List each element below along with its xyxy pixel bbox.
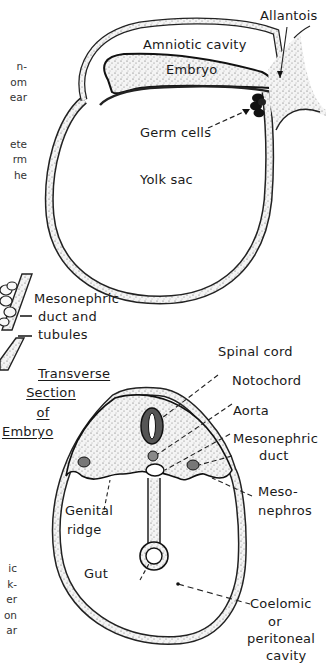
label-embryo: Embryo	[166, 62, 217, 77]
frag-line: ear	[0, 90, 27, 106]
frag-line: ar	[0, 623, 17, 639]
label-mesonephric-duct-tubules-1: Mesonephric	[34, 291, 119, 306]
frag-line: rm	[0, 152, 27, 168]
notochord	[148, 451, 158, 461]
label-yolk-sac: Yolk sac	[140, 172, 193, 187]
label-genital-ridge-1: Genital	[65, 503, 113, 518]
frag-line: er	[0, 592, 17, 608]
label-coelomic-1: Coelomic	[250, 596, 312, 611]
label-genital-ridge-2: ridge	[67, 522, 101, 537]
label-mesonephric-duct-tubules-3: tubules	[38, 327, 88, 342]
label-germ-cells: Germ cells	[140, 125, 211, 140]
mesonephric-duct-right	[187, 460, 199, 470]
label-allantois: Allantois	[260, 8, 318, 23]
mesonephric-tubules-fragment	[0, 274, 32, 370]
section-title-line-4: Embryo	[2, 424, 52, 439]
frag-line: om	[0, 75, 27, 91]
label-coelomic-3: peritoneal	[247, 631, 315, 646]
cropped-text-bottom: ic k- er on ar	[0, 561, 17, 639]
label-coelomic-4: cavity	[266, 648, 306, 663]
label-notochord: Notochord	[232, 373, 301, 388]
aorta	[146, 464, 164, 476]
label-mesonephros-2: nephros	[258, 503, 312, 518]
mesonephric-duct-left	[78, 457, 90, 467]
section-title-line-3: of	[33, 405, 53, 420]
label-gut: Gut	[84, 566, 108, 581]
frag-line: n-	[0, 59, 27, 75]
frag-line: on	[0, 608, 17, 624]
label-mesonephros-1: Meso-	[258, 484, 298, 499]
section-title-line-2: Section	[26, 385, 76, 400]
label-mesonephric-duct-1: Mesonephric	[233, 431, 318, 446]
label-mesonephric-duct-tubules-2: duct and	[38, 309, 97, 324]
germ-cells-leader	[208, 110, 248, 128]
label-aorta: Aorta	[233, 403, 269, 418]
frag-line: ic	[0, 561, 17, 577]
label-mesonephric-duct-2: duct	[259, 448, 289, 463]
frag-line: k-	[0, 577, 17, 593]
frag-line	[0, 106, 27, 122]
label-coelomic-2: or	[268, 614, 282, 629]
frag-line: ete	[0, 137, 27, 153]
section-title-line-1: Transverse	[38, 366, 110, 381]
frag-line	[0, 121, 27, 137]
label-amniotic-cavity: Amniotic cavity	[143, 37, 247, 52]
cropped-text-top: n- om ear ete rm he	[0, 59, 27, 183]
frag-line: he	[0, 168, 27, 184]
label-spinal-cord: Spinal cord	[218, 344, 293, 359]
